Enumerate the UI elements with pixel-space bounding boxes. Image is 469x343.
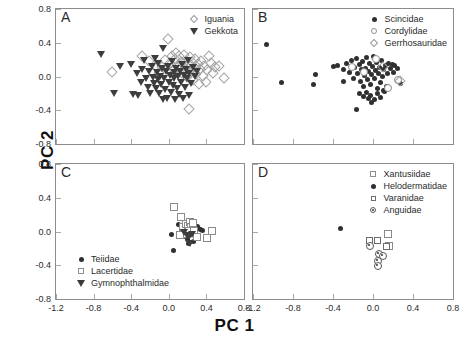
data-point-scincidae — [354, 107, 359, 112]
circle-dot-icon — [370, 207, 376, 213]
plot-area: CTeiidaeLacertidaeGymnophthalmidae — [56, 164, 244, 299]
data-point-scincidae — [391, 70, 396, 75]
legend-marker-square-small-icon — [366, 196, 380, 201]
y-tick-label: 0.0 — [25, 227, 51, 237]
y-tick-label: 0.4 — [25, 38, 51, 48]
data-point-scincidae — [341, 67, 346, 72]
data-point-scincidae — [372, 76, 377, 81]
legend-marker-circle-open-icon — [367, 28, 381, 34]
data-point-teiidae — [169, 232, 174, 237]
x-tick-label: -1.2 — [238, 303, 268, 313]
data-point-lacertidae — [170, 203, 178, 211]
legend-label: Gymnophthalmidae — [88, 278, 169, 288]
legend-item-helodermatidae: Helodermatidae — [366, 180, 447, 192]
data-point-gymnophthalmidae — [188, 231, 196, 238]
data-point-scincidae — [378, 80, 383, 85]
x-tick-label: 0.0 — [358, 303, 388, 313]
data-point-lacertidae — [208, 227, 216, 235]
data-point-scincidae — [351, 76, 356, 81]
x-tick — [206, 294, 207, 299]
data-point-gekkota — [116, 63, 124, 70]
x-tick-label: 0.4 — [191, 303, 221, 313]
legend-label: Helodermatidae — [380, 181, 447, 191]
data-point-iguania — [183, 103, 194, 114]
data-point-scincidae — [385, 71, 390, 76]
y-tick — [253, 77, 258, 78]
legend-label: Scincidae — [381, 14, 423, 24]
data-point-scincidae — [380, 74, 385, 79]
y-tick-label: -0.4 — [25, 105, 51, 115]
x-tick-label: 0.4 — [398, 303, 428, 313]
circle-filled-icon — [371, 184, 376, 189]
legend-marker-square-open-icon — [74, 268, 88, 274]
circle-open-icon — [371, 28, 377, 34]
y-tick — [253, 43, 258, 44]
data-point-varanidae — [383, 243, 390, 250]
square-open-icon — [370, 171, 376, 177]
data-point-gekkota — [134, 92, 142, 99]
x-tick — [94, 139, 95, 144]
y-tick — [56, 198, 61, 199]
x-tick — [293, 139, 294, 144]
data-point-gekkota — [184, 57, 192, 64]
data-point-varanidae — [374, 237, 381, 244]
y-tick-label: 0.0 — [25, 72, 51, 82]
data-point-gekkota — [159, 96, 167, 103]
data-point-scincidae — [360, 59, 365, 64]
x-tick — [206, 139, 207, 144]
legend-item-teiidae: Teiidae — [74, 253, 169, 265]
legend-label: Varanidae — [380, 193, 423, 203]
data-point-iguania — [219, 72, 230, 83]
plot-area: AIguaniaGekkota — [56, 9, 244, 144]
legend-marker-square-open-icon — [366, 171, 380, 177]
data-point-teiidae — [171, 248, 176, 253]
x-tick — [413, 294, 414, 299]
legend-panel-a: IguaniaGekkota — [187, 13, 238, 37]
legend-item-anguidae: Anguidae — [366, 204, 447, 216]
data-point-scincidae — [361, 94, 366, 99]
data-point-anguidae — [374, 262, 382, 270]
data-point-gekkota — [185, 92, 193, 99]
x-axis-label: PC 1 — [0, 316, 469, 336]
legend-marker-triangle-down-icon — [187, 28, 201, 35]
triangle-down-icon — [190, 28, 198, 35]
data-point-cordylidae — [372, 55, 380, 63]
plot-area: DXantusiidaeHelodermatidaeVaranidaeAngui… — [253, 164, 453, 299]
legend-marker-circle-filled-icon — [367, 17, 381, 22]
legend-label: Cordylidae — [381, 26, 427, 36]
data-point-scincidae — [279, 80, 284, 85]
y-tick — [253, 110, 258, 111]
legend-marker-circle-filled-icon — [74, 257, 88, 262]
data-point-gekkota — [187, 80, 195, 87]
legend-item-gymnophthalmidae: Gymnophthalmidae — [74, 277, 169, 289]
plot-area: BScincidaeCordylidaeGerrhosauridae — [253, 9, 453, 144]
circle-filled-icon — [372, 17, 377, 22]
data-point-gekkota — [159, 45, 167, 52]
panel-label-a: A — [61, 10, 70, 25]
data-point-helodermatidae — [338, 226, 343, 231]
scatter-panel-b: BScincidaeCordylidaeGerrhosauridae — [252, 8, 454, 145]
legend-label: Xantusiidae — [380, 169, 430, 179]
legend-panel-b: ScincidaeCordylidaeGerrhosauridae — [367, 13, 447, 49]
y-tick — [253, 198, 258, 199]
x-tick — [131, 139, 132, 144]
x-tick-label: -0.4 — [318, 303, 348, 313]
data-point-scincidae — [341, 79, 346, 84]
panel-label-c: C — [61, 165, 71, 180]
y-tick — [56, 43, 61, 44]
data-point-scincidae — [368, 82, 373, 87]
legend-panel-d: XantusiidaeHelodermatidaeVaranidaeAnguid… — [366, 168, 447, 216]
x-tick-label: -1.2 — [41, 303, 71, 313]
x-tick-label: -0.8 — [278, 303, 308, 313]
y-tick — [56, 265, 61, 266]
data-point-iguania — [162, 33, 173, 44]
data-point-gekkota — [127, 61, 135, 68]
data-point-gekkota — [97, 51, 105, 58]
legend-item-gerrhosauridae: Gerrhosauridae — [367, 37, 447, 49]
panel-label-d: D — [258, 165, 268, 180]
y-tick — [253, 232, 258, 233]
figure-root: PC 2 PC 1 AIguaniaGekkota0.80.40.0-0.4-0… — [0, 0, 469, 343]
x-tick — [413, 139, 414, 144]
x-tick-label: 0.8 — [438, 303, 468, 313]
x-tick-label: 0.0 — [154, 303, 184, 313]
